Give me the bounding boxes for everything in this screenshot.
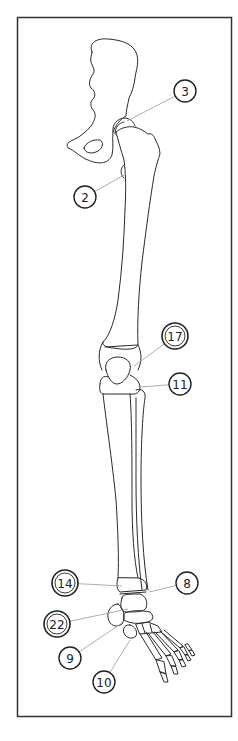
callout-11: 11 xyxy=(169,373,191,395)
callout-number: 3 xyxy=(181,85,189,99)
callout-number: 22 xyxy=(49,618,64,632)
callout-14: 14 xyxy=(52,570,78,596)
callout-10: 10 xyxy=(93,671,115,693)
navicular xyxy=(124,611,153,624)
leader-line-3 xyxy=(127,96,175,121)
callout-9: 9 xyxy=(59,647,81,669)
knee-joint-line xyxy=(105,345,137,347)
leader-line-10 xyxy=(110,640,130,673)
leader-line-22 xyxy=(70,609,128,621)
tibia-plateau xyxy=(100,375,140,394)
callout-number: 14 xyxy=(57,577,72,591)
calcaneus xyxy=(108,604,124,626)
fibula xyxy=(136,389,148,590)
leader-line-8 xyxy=(149,586,176,592)
callout-number: 11 xyxy=(172,378,187,392)
callout-17: 17 xyxy=(162,323,188,349)
callout-number: 17 xyxy=(167,330,182,344)
callout-number: 9 xyxy=(66,652,74,666)
leader-line-14 xyxy=(78,584,122,586)
leader-lines xyxy=(70,96,177,673)
leader-line-11 xyxy=(140,385,169,387)
leader-line-2 xyxy=(95,174,126,192)
phalanges xyxy=(156,644,195,682)
cuneiforms xyxy=(136,622,162,634)
leg-skeleton-diagram: 32171114822910 xyxy=(0,0,238,741)
callout-number: 2 xyxy=(81,191,89,205)
cuboid xyxy=(123,625,136,638)
callout-3: 3 xyxy=(174,80,196,102)
callout-2: 2 xyxy=(74,186,96,208)
tibia xyxy=(103,394,138,578)
distal-tibia xyxy=(117,578,147,592)
leader-line-9 xyxy=(79,623,122,652)
callout-number: 8 xyxy=(183,577,191,591)
patella xyxy=(106,357,131,384)
callout-number: 10 xyxy=(96,676,111,690)
callout-8: 8 xyxy=(176,572,198,594)
obturator-foramen xyxy=(84,140,102,153)
femur xyxy=(103,127,160,350)
callout-22: 22 xyxy=(44,611,70,637)
